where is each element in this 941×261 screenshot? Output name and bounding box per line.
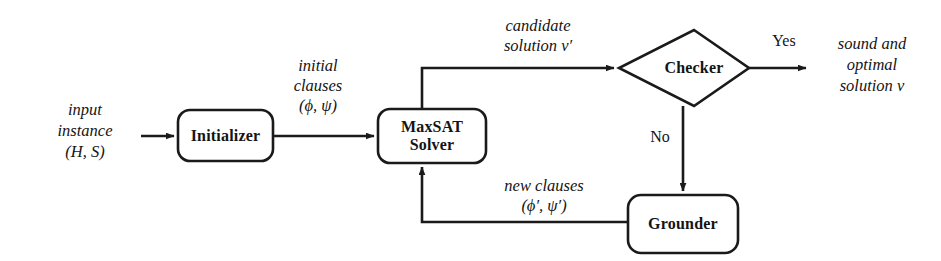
branch-label-yes: Yes [760, 32, 808, 50]
edge-maxsat-to-checker [422, 68, 614, 109]
new-clauses-label: new clauses (ϕ′, ψ′) [460, 176, 628, 216]
checker-diamond [619, 30, 749, 106]
maxsat-solver-box [378, 109, 486, 163]
branch-label-no: No [640, 128, 680, 146]
input-instance-label: input instance (H, S) [10, 100, 160, 162]
candidate-solution-label: candidate solution ν′ [452, 16, 624, 56]
output-solution-label: sound and optimal solution ν [806, 34, 938, 96]
initializer-box [178, 110, 273, 161]
grounder-box [628, 195, 738, 253]
flowchart-diagram: Initializer MaxSAT Solver Checker Ground… [0, 0, 941, 261]
initial-clauses-label: initial clauses (ϕ, ψ) [258, 56, 378, 115]
